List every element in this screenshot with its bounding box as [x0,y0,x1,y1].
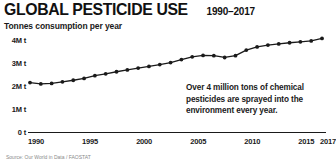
data-point [71,78,75,82]
data-point [50,82,54,86]
data-point [244,48,248,52]
data-point [147,65,151,69]
data-point [298,40,302,44]
data-point [158,63,162,67]
x-axis-tick-label: 2017 [320,137,336,146]
data-point [190,55,194,59]
data-point [61,80,65,84]
data-point [136,66,140,70]
title-year-range: 1990–2017 [207,7,255,17]
data-point [82,77,86,81]
data-point [223,56,227,60]
data-point [39,82,43,86]
data-point [115,70,119,74]
x-axis-baseline [28,132,326,133]
x-axis-tick-label: 2000 [136,137,152,146]
x-axis-tick-label: 2015 [298,137,314,146]
annotation-callout: Over 4 million tons of chemical pesticid… [186,82,328,117]
data-point [201,54,205,58]
data-point [277,42,281,46]
data-point [234,54,238,58]
page-title: GLOBAL PESTICIDE USE [4,1,188,18]
data-point [28,81,32,85]
x-axis-tick-label: 1990 [28,137,44,146]
data-point [255,45,259,49]
x-axis-tick-label: 2005 [190,137,206,146]
data-point [288,41,292,45]
chart-header: GLOBAL PESTICIDE USE 1990–2017 [4,1,255,18]
data-point [104,72,108,76]
data-point [320,36,324,40]
data-point [125,68,129,72]
x-axis-labels: 1990199520002005201020152017 [0,137,330,149]
data-point [309,39,313,43]
x-axis-tick-label: 2010 [244,137,260,146]
source-credit: Source: Our World in Data / FAOSTAT [6,154,91,160]
data-point [169,61,173,65]
data-point [180,58,184,62]
x-axis-tick-label: 1995 [82,137,98,146]
data-point [212,54,216,58]
data-point [93,74,97,78]
data-point [266,43,270,47]
chart-subtitle: Tonnes consumption per year [4,21,122,31]
